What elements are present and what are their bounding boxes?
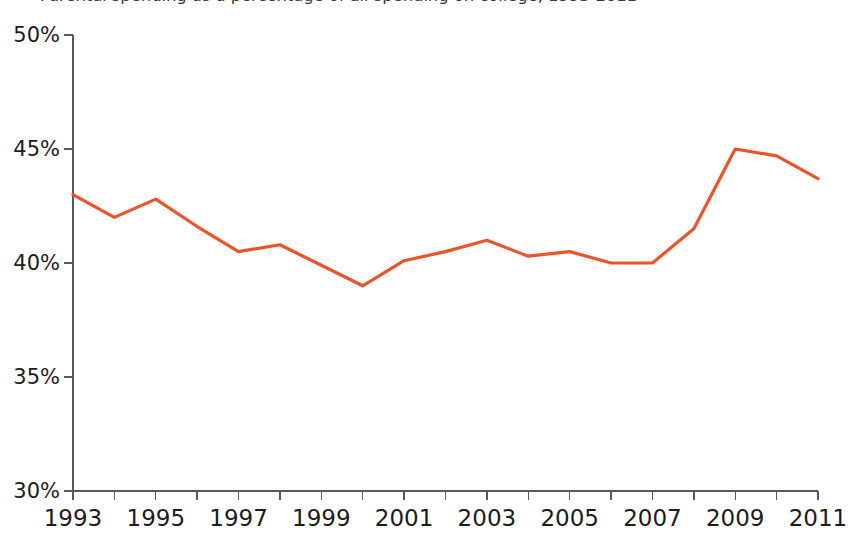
x-axis-tick-label: 1995 [127,505,186,531]
axis-lines [73,35,818,491]
chart-figure: Parental spending as a percentage of all… [0,0,858,544]
x-axis-tick-label: 2005 [540,505,599,531]
y-axis-tick-label: 30% [13,479,60,503]
x-axis-tick-label: 1999 [292,505,351,531]
x-axis-ticks [73,491,818,500]
y-axis-tick-label: 50% [13,23,60,47]
x-axis-tick-label: 2003 [458,505,517,531]
data-series-line [73,149,818,286]
line-chart-plot: 50%45%40%35%30% 199319951997199920012003… [0,0,858,544]
y-axis-labels: 50%45%40%35%30% [13,23,60,503]
x-axis-tick-label: 1993 [44,505,103,531]
x-axis-tick-label: 2007 [623,505,682,531]
x-axis-tick-label: 2001 [375,505,434,531]
y-axis-tick-label: 45% [13,137,60,161]
x-axis-labels: 1993199519971999200120032005200720092011 [44,505,848,531]
x-axis-tick-label: 1997 [209,505,268,531]
x-axis-tick-label: 2011 [789,505,848,531]
x-axis-tick-label: 2009 [706,505,765,531]
y-axis-ticks [64,35,73,491]
y-axis-tick-label: 35% [13,365,60,389]
y-axis-tick-label: 40% [13,251,60,275]
